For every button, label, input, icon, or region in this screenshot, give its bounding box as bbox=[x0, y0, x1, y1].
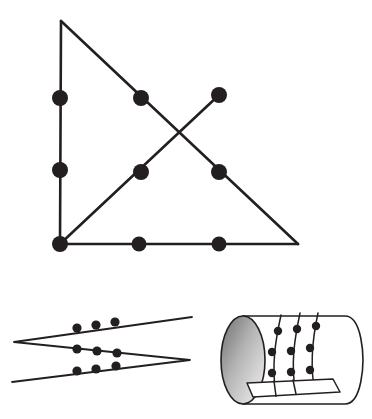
bottom-leg-right-dot bbox=[212, 237, 227, 252]
chord-middle-dot bbox=[133, 164, 149, 180]
strand3-dot-1 bbox=[72, 366, 81, 375]
strand2-dot-3 bbox=[112, 348, 121, 357]
zigzag-polyline bbox=[12, 317, 192, 382]
left-leg-lower-dot bbox=[52, 162, 68, 178]
bottom-leg-left-dot bbox=[132, 237, 147, 252]
figure-plate bbox=[0, 0, 372, 419]
strand1-dot-3 bbox=[110, 317, 119, 326]
thread-right-dot-3 bbox=[306, 366, 314, 374]
cylinder-figure bbox=[221, 313, 363, 404]
thread-left-dot-3 bbox=[268, 369, 276, 377]
triangle-figure bbox=[52, 21, 298, 252]
strand2-dot-1 bbox=[72, 344, 81, 353]
thread-middle-dot-1 bbox=[293, 325, 301, 333]
strand1-dot-1 bbox=[72, 323, 81, 332]
thread-right-dot-1 bbox=[312, 322, 320, 330]
thread-middle-dot-3 bbox=[287, 368, 295, 376]
chord-endpoint-dot bbox=[211, 87, 227, 103]
triangle-left-leg bbox=[60, 21, 61, 244]
thread-left-dot-1 bbox=[274, 327, 282, 335]
thread-right-dot-2 bbox=[306, 344, 314, 352]
hypotenuse-lower-dot bbox=[211, 164, 227, 180]
left-leg-upper-dot bbox=[52, 90, 68, 106]
figure-canvas bbox=[0, 0, 372, 419]
strand1-dot-2 bbox=[91, 320, 100, 329]
hypotenuse-upper-dot bbox=[133, 90, 149, 106]
zigzag-figure bbox=[12, 317, 192, 382]
strand2-dot-2 bbox=[92, 346, 101, 355]
bottom-left-vertex-dot bbox=[52, 236, 68, 252]
strand3-dot-2 bbox=[91, 364, 100, 373]
thread-left-dot-2 bbox=[268, 348, 276, 356]
strand3-dot-3 bbox=[111, 361, 120, 370]
thread-middle-dot-2 bbox=[287, 347, 295, 355]
